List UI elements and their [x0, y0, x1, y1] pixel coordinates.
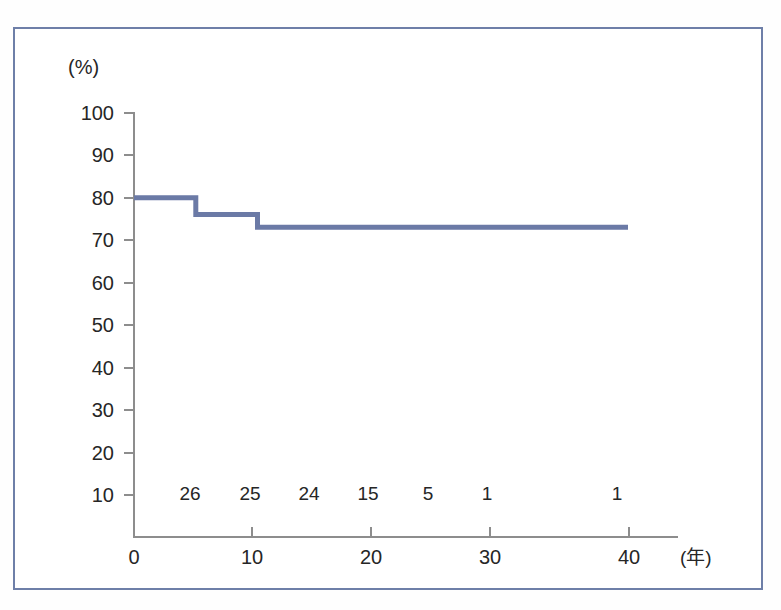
x-tick-label-20: 20	[347, 547, 395, 567]
y-axis-unit-label: (%)	[68, 57, 99, 77]
risk-number-30: 1	[465, 484, 509, 504]
y-tick-label-90: 90	[62, 145, 114, 165]
y-tick-40	[124, 367, 133, 369]
plot-area: (%) 100 90 80 70 60 50 40 30 20 10	[0, 0, 781, 610]
risk-number-5: 26	[168, 484, 212, 504]
survival-step-polyline	[134, 198, 628, 228]
y-tick-60	[124, 282, 133, 284]
survival-step-curve	[0, 0, 781, 610]
x-tick-0	[133, 527, 135, 536]
y-tick-label-20: 20	[62, 443, 114, 463]
x-tick-label-30: 30	[466, 547, 514, 567]
x-axis-unit-label: (年)	[680, 548, 712, 568]
y-tick-label-70: 70	[62, 230, 114, 250]
x-tick-label-10: 10	[228, 547, 276, 567]
y-tick-20	[124, 452, 133, 454]
y-tick-label-50: 50	[62, 315, 114, 335]
x-tick-30	[489, 527, 491, 536]
y-tick-10	[124, 494, 133, 496]
y-tick-label-100: 100	[62, 103, 114, 123]
x-tick-10	[251, 527, 253, 536]
x-tick-40	[628, 527, 630, 536]
y-axis-line	[133, 112, 135, 537]
y-tick-50	[124, 324, 133, 326]
x-axis-line	[133, 536, 678, 538]
figure-root: (%) 100 90 80 70 60 50 40 30 20 10	[0, 0, 781, 610]
y-tick-label-40: 40	[62, 358, 114, 378]
x-tick-label-0: 0	[110, 547, 158, 567]
risk-number-20: 15	[346, 484, 390, 504]
y-tick-90	[124, 154, 133, 156]
y-tick-label-10: 10	[62, 485, 114, 505]
y-tick-label-80: 80	[62, 188, 114, 208]
risk-number-25: 5	[406, 484, 450, 504]
y-tick-80	[124, 197, 133, 199]
x-tick-label-40: 40	[605, 547, 653, 567]
y-tick-label-60: 60	[62, 273, 114, 293]
y-tick-100	[124, 112, 133, 114]
y-tick-label-30: 30	[62, 400, 114, 420]
y-tick-30	[124, 409, 133, 411]
risk-number-40: 1	[595, 484, 639, 504]
risk-number-10: 25	[228, 484, 272, 504]
y-tick-70	[124, 239, 133, 241]
x-tick-20	[370, 527, 372, 536]
risk-number-15: 24	[287, 484, 331, 504]
